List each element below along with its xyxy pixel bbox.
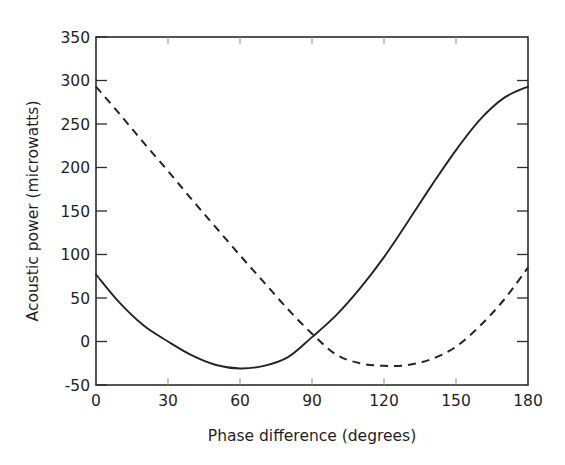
- x-tick-label: 30: [158, 392, 178, 410]
- y-tick-label: 350: [60, 29, 90, 47]
- y-tick-label: 250: [60, 116, 90, 134]
- x-tick-label: 0: [91, 392, 101, 410]
- x-axis-top-ticks: [168, 37, 456, 44]
- x-tick-label: 90: [302, 392, 322, 410]
- y-tick-label: 100: [60, 246, 90, 264]
- series-solid-curve: [96, 87, 528, 369]
- y-axis-right-ticks: [517, 81, 528, 342]
- y-tick-label: 50: [70, 290, 90, 308]
- x-axis-title: Phase difference (degrees): [208, 427, 416, 445]
- chart-figure: -50 0 50 100 150 200 250 300 350 0 30 60…: [0, 0, 565, 465]
- x-tick-label: 120: [369, 392, 399, 410]
- x-tick-label: 180: [513, 392, 543, 410]
- series-dashed-curve: [96, 87, 528, 366]
- y-tick-labels: -50 0 50 100 150 200 250 300 350: [60, 29, 90, 395]
- y-tick-label: 0: [80, 333, 90, 351]
- x-tick-labels: 0 30 60 90 120 150 180: [91, 392, 543, 410]
- y-tick-label: 200: [60, 159, 90, 177]
- acoustic-power-phase-plot: -50 0 50 100 150 200 250 300 350 0 30 60…: [0, 0, 565, 465]
- y-tick-label: 300: [60, 72, 90, 90]
- y-tick-label: -50: [65, 377, 90, 395]
- y-tick-label: 150: [60, 203, 90, 221]
- y-axis-title: Acoustic power (microwatts): [24, 101, 42, 322]
- x-tick-label: 150: [441, 392, 471, 410]
- x-axis-ticks: [168, 378, 456, 385]
- x-tick-label: 60: [230, 392, 250, 410]
